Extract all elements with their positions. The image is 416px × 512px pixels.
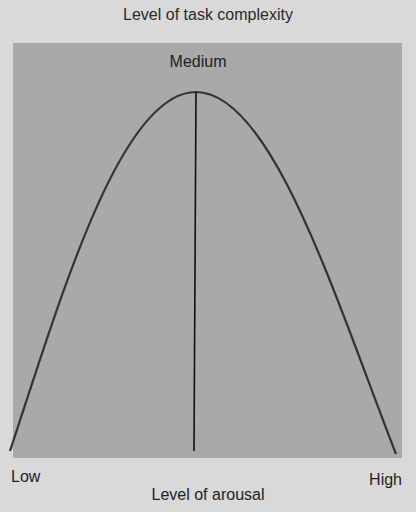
inverted-u-curve bbox=[0, 0, 416, 512]
x-axis-title: Level of arousal bbox=[0, 486, 416, 504]
center-divider bbox=[194, 92, 196, 451]
low-label: Low bbox=[11, 468, 40, 486]
curve-line bbox=[10, 92, 396, 454]
